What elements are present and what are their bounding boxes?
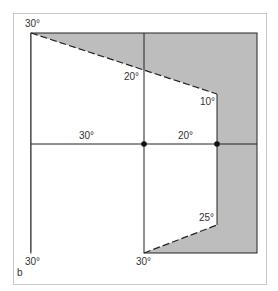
- label-top-left: 30°: [25, 19, 40, 29]
- label-bottom-middle: 30°: [136, 257, 151, 267]
- panel-label: b: [17, 268, 23, 278]
- label-middle-right: 20°: [178, 131, 193, 141]
- label-upper-right: 10°: [200, 97, 215, 107]
- label-upper-middle: 20°: [124, 72, 139, 82]
- intersection-dot-center: [141, 141, 147, 147]
- diagram-figure: [0, 0, 278, 291]
- label-lower-right: 25°: [199, 213, 214, 223]
- intersection-dot-right: [214, 141, 220, 147]
- label-middle-left: 30°: [79, 131, 94, 141]
- label-bottom-left: 30°: [25, 257, 40, 267]
